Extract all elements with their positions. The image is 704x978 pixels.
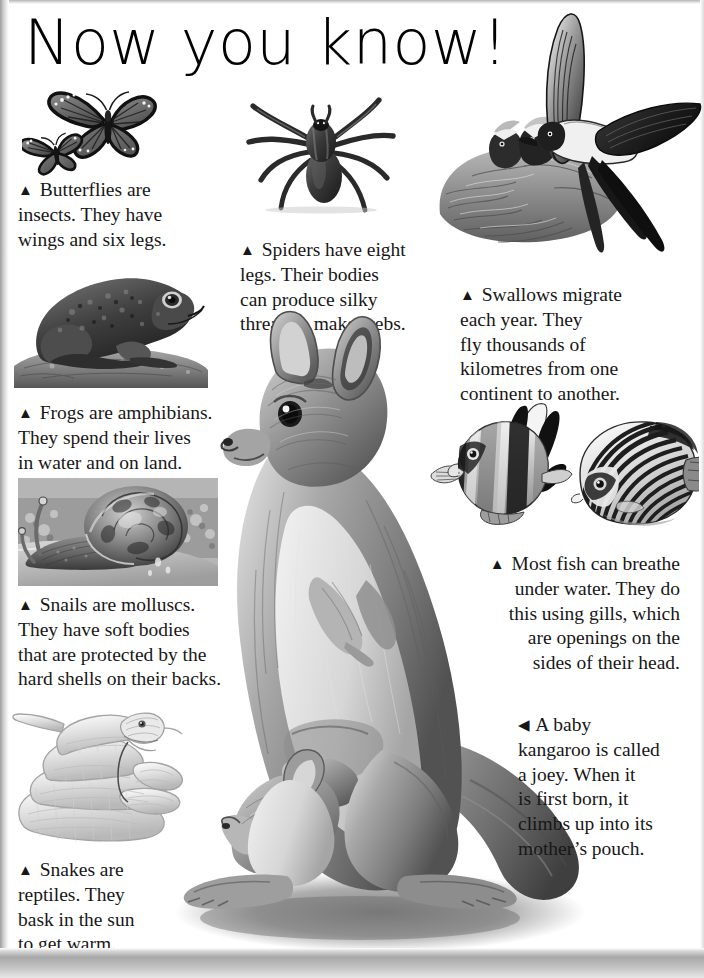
caption-spiders-line1: Spiders have eight xyxy=(262,239,406,260)
bullet-up-icon: ▲ xyxy=(18,182,35,198)
caption-frogs-line3: in water and on land. xyxy=(18,452,182,473)
book-page: Now you know! xyxy=(0,0,704,978)
bullet-up-icon: ▲ xyxy=(240,242,257,258)
snake-illustration xyxy=(6,694,191,859)
caption-snails-line2: They have soft bodies xyxy=(18,619,190,640)
butterflies-illustration xyxy=(22,78,192,178)
caption-butterflies-line3: wings and six legs. xyxy=(18,229,166,250)
caption-kangaroo: ◀ A baby kangaroo is called a joey. When… xyxy=(518,713,698,862)
caption-butterflies-line2: insects. They have xyxy=(18,204,162,225)
bullet-up-icon: ▲ xyxy=(18,597,35,613)
caption-kangaroo-line1: A baby xyxy=(535,714,591,735)
caption-butterflies-line1: Butterflies are xyxy=(40,179,151,200)
spider-illustration xyxy=(245,78,400,218)
caption-snakes: ▲ Snakes are reptiles. They bask in the … xyxy=(18,858,188,957)
caption-frogs-line2: They spend their lives xyxy=(18,427,191,448)
caption-kangaroo-line6: mother’s pouch. xyxy=(518,838,644,859)
caption-kangaroo-line3: a joey. When it xyxy=(518,764,636,785)
caption-butterflies: ▲ Butterflies are insects. They have win… xyxy=(18,178,238,252)
bullet-up-icon: ▲ xyxy=(460,287,477,303)
caption-spiders-line2: legs. Their bodies xyxy=(240,264,379,285)
caption-kangaroo-line4: is first born, it xyxy=(518,788,629,809)
caption-swallows-line1: Swallows migrate xyxy=(482,284,622,305)
caption-kangaroo-line5: climbs up into its xyxy=(518,813,653,834)
caption-snakes-line2: reptiles. They xyxy=(18,884,125,905)
caption-snakes-line3: bask in the sun xyxy=(18,909,134,930)
bullet-left-icon: ◀ xyxy=(518,717,532,733)
bullet-up-icon: ▲ xyxy=(18,862,35,878)
caption-snakes-line1: Snakes are xyxy=(40,859,124,880)
page-edge-bottom xyxy=(0,948,704,978)
kangaroo-illustration xyxy=(170,310,590,960)
caption-spiders-line3: can produce silky xyxy=(240,289,378,310)
swallow-illustration xyxy=(424,4,704,266)
caption-kangaroo-line2: kangaroo is called xyxy=(518,739,660,760)
bullet-up-icon: ▲ xyxy=(18,405,35,421)
